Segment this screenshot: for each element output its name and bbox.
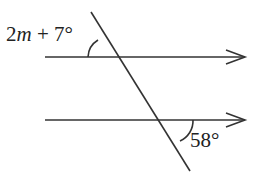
angle-arc-top: [88, 40, 98, 57]
angle-label-bottom: 58°: [190, 130, 219, 151]
transversal-line: [91, 12, 190, 171]
diagram: 2m + 7° 58°: [0, 0, 258, 183]
angle-label-top: 2m + 7°: [6, 24, 73, 45]
